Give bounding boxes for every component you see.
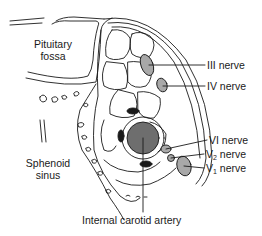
label-pituitary-line2: fossa <box>27 50 79 62</box>
label-sphenoid-line1: Sphenoid <box>18 157 78 169</box>
label-v2-nerve: V2 nerve <box>206 148 246 160</box>
v2-suffix: nerve <box>217 148 246 160</box>
anatomy-figure: Pituitary fossa Sphenoid sinus III nerve… <box>0 0 262 236</box>
label-iv-nerve: IV nerve <box>207 80 246 92</box>
v1-prefix: V <box>206 162 213 174</box>
cavernous-sinus-drawing <box>0 0 262 236</box>
label-internal-carotid-artery: Internal carotid artery <box>82 214 181 226</box>
v2-prefix: V <box>206 148 213 160</box>
label-iii-nerve: III nerve <box>207 59 245 71</box>
label-pituitary-line1: Pituitary <box>27 38 79 50</box>
label-vi-nerve: VI nerve <box>209 134 248 146</box>
v1-suffix: nerve <box>217 162 246 174</box>
label-pituitary-fossa: Pituitary fossa <box>27 38 79 62</box>
label-sphenoid-sinus: Sphenoid sinus <box>18 157 78 181</box>
label-sphenoid-line2: sinus <box>18 169 78 181</box>
label-v1-nerve: V1 nerve <box>206 162 246 174</box>
